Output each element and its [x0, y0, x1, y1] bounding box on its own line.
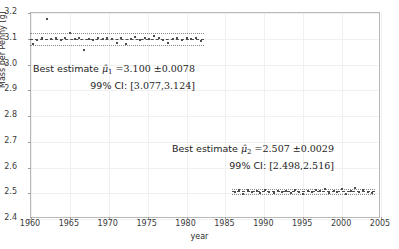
y-axis-tick-label: 2.6: [0, 163, 17, 171]
y-axis-tick-label: 2.4: [0, 214, 17, 222]
data-point: [251, 191, 253, 193]
gridline-horizontal: [31, 13, 379, 14]
data-point: [153, 35, 155, 37]
data-point: [125, 43, 127, 45]
annot1-ci-label: 99% CI:: [90, 80, 130, 91]
data-point: [172, 38, 174, 40]
annotation-estimate-1: Best estimate μ̂1 =3.100 ±0.0078 99% CI:…: [33, 62, 195, 92]
gridline-vertical: [264, 13, 265, 217]
data-point: [333, 190, 335, 192]
gridline-vertical: [148, 13, 149, 217]
data-point: [311, 191, 313, 193]
data-point: [116, 42, 118, 44]
data-point: [290, 192, 292, 194]
data-point: [277, 190, 279, 192]
data-point: [242, 193, 244, 195]
x-axis-label: year: [0, 232, 399, 241]
data-point: [139, 39, 141, 41]
data-point: [102, 38, 104, 40]
data-point: [88, 38, 90, 40]
x-axis-tick-label: 1980: [166, 220, 206, 228]
y-axis-tick: [28, 142, 31, 143]
data-point: [41, 37, 43, 39]
data-point: [92, 39, 94, 41]
ci-upper-line-series-2: [232, 189, 375, 190]
data-point: [32, 43, 34, 45]
data-point: [358, 191, 360, 193]
y-axis-tick: [28, 90, 31, 91]
data-point: [186, 37, 188, 39]
data-point: [97, 37, 99, 39]
data-point: [46, 18, 48, 20]
data-point: [336, 191, 338, 193]
y-axis-tick-label: 3.1: [0, 34, 17, 42]
data-point: [195, 37, 197, 39]
gridline-vertical: [303, 13, 304, 217]
y-axis-tick: [28, 13, 31, 14]
y-axis-tick: [28, 193, 31, 194]
data-point: [200, 40, 202, 42]
y-axis-tick-label: 3.0: [0, 60, 17, 68]
data-point: [259, 192, 261, 194]
data-point: [148, 38, 150, 40]
data-point: [167, 42, 169, 44]
data-point: [144, 37, 146, 39]
data-point: [74, 38, 76, 40]
data-point: [238, 189, 240, 191]
x-axis-tick-label: 1985: [204, 220, 244, 228]
gridline-vertical: [109, 13, 110, 217]
data-point: [83, 49, 85, 51]
y-axis-tick-label: 2.9: [0, 85, 17, 93]
annot2-ci-value: [2.498,2.516]: [269, 160, 334, 171]
data-point: [294, 189, 296, 191]
y-axis-tick: [28, 116, 31, 117]
gridline-vertical: [187, 13, 188, 217]
annot1-ci-value: [3.077,3.124]: [130, 80, 195, 91]
y-axis-tick-label: 2.7: [0, 137, 17, 145]
x-axis-tick-label: 2000: [321, 220, 361, 228]
chart-figure: Mass per Penny [g] year Best estimate μ̂…: [0, 0, 399, 249]
y-axis-tick-label: 2.8: [0, 111, 17, 119]
data-point: [162, 39, 164, 41]
data-point: [247, 189, 249, 191]
data-point: [50, 38, 52, 40]
data-point: [60, 39, 62, 41]
data-point: [190, 38, 192, 40]
annot2-value: =2.507 ±0.0029: [252, 143, 334, 154]
data-point: [319, 190, 321, 192]
x-axis-tick-label: 1995: [282, 220, 322, 228]
data-point: [268, 191, 270, 193]
annot1-prefix: Best estimate: [33, 63, 102, 74]
gridline-vertical: [225, 13, 226, 217]
x-axis-tick-label: 1970: [88, 220, 128, 228]
gridline-vertical: [381, 13, 382, 217]
x-axis-tick-label: 1975: [127, 220, 167, 228]
data-point: [106, 37, 108, 39]
data-point: [315, 189, 317, 191]
data-point: [354, 187, 356, 189]
data-point: [120, 37, 122, 39]
data-point: [307, 190, 309, 192]
data-point: [324, 188, 326, 190]
y-axis-tick-label: 2.5: [0, 188, 17, 196]
data-point: [36, 39, 38, 41]
y-axis-tick: [28, 168, 31, 169]
y-axis-tick: [28, 65, 31, 66]
data-point: [176, 37, 178, 39]
ci-lower-line-series-1: [30, 45, 203, 46]
data-point: [371, 192, 373, 194]
data-point: [362, 189, 364, 191]
data-point: [256, 190, 258, 192]
data-point: [181, 39, 183, 41]
data-point: [69, 32, 71, 34]
data-point: [78, 37, 80, 39]
x-axis-tick-label: 1990: [243, 220, 283, 228]
data-point: [111, 38, 113, 40]
gridline-vertical: [342, 13, 343, 217]
data-point: [130, 38, 132, 40]
data-point: [158, 37, 160, 39]
data-point: [345, 193, 347, 195]
ci-upper-line-series-1: [30, 33, 203, 34]
data-point: [298, 191, 300, 193]
data-point: [285, 190, 287, 192]
